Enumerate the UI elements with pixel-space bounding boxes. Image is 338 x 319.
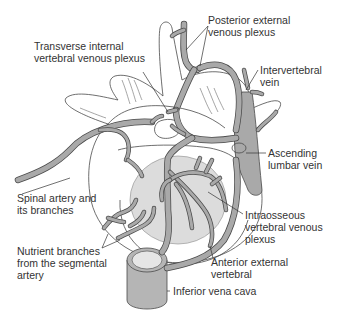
label-anterior-external-vertebral: Anterior external vertebral: [211, 256, 288, 280]
label-nutrient-branches: Nutrient branches from the segmental art…: [17, 245, 107, 281]
label-inferior-vena-cava: Inferior vena cava: [173, 285, 256, 297]
label-spinal-artery: Spinal artery and its branches: [17, 192, 96, 216]
inferior-vena-cava: [127, 248, 167, 309]
label-intraosseous-vertebral-venous-plexus: Intraosseous vertebral venous plexus: [245, 209, 323, 245]
label-transverse-internal-vertebral-venous-plexus: Transverse internal vertebral venous ple…: [34, 40, 145, 64]
label-intervertebral-vein: Intervertebral vein: [260, 64, 322, 88]
label-posterior-external-venous-plexus: Posterior external venous plexus: [208, 14, 290, 38]
label-ascending-lumbar-vein: Ascending lumbar vein: [268, 147, 322, 171]
